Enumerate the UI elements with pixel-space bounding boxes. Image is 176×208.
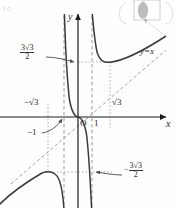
tick-label-neg-sqrt3: −√3 xyxy=(24,98,39,107)
value-label-lower-extremum: − 3√3 2 xyxy=(124,162,143,179)
function-graph-figure: t y x O y=x −√3 −1 1 √3 3√3 2 − 3√3 2 xyxy=(0,0,176,208)
tick-label-neg-one: −1 xyxy=(27,128,37,137)
curve-right-branch xyxy=(92,14,166,62)
lower-extremum-denominator: 2 xyxy=(129,171,143,179)
scan-artifact-top-left: t xyxy=(3,4,11,13)
tick-label-one: 1 xyxy=(94,119,99,128)
curve-left-branch xyxy=(0,172,64,208)
svg-text:t: t xyxy=(3,4,6,13)
value-label-upper-extremum: 3√3 2 xyxy=(20,44,34,61)
leader-arrow-upper-extremum xyxy=(46,57,74,62)
scan-artifact-top-right xyxy=(119,0,173,38)
y-axis-label: y xyxy=(68,12,72,22)
asymptote-label-y-equals-x: y=x xyxy=(140,47,154,56)
leader-arrow-neg-one xyxy=(42,119,62,133)
x-axis-label: x xyxy=(166,119,170,129)
origin-label: O xyxy=(80,119,87,128)
tick-label-sqrt3: √3 xyxy=(112,98,121,107)
upper-extremum-denominator: 2 xyxy=(20,53,34,61)
leader-arrow-lower-extremum xyxy=(96,172,122,175)
